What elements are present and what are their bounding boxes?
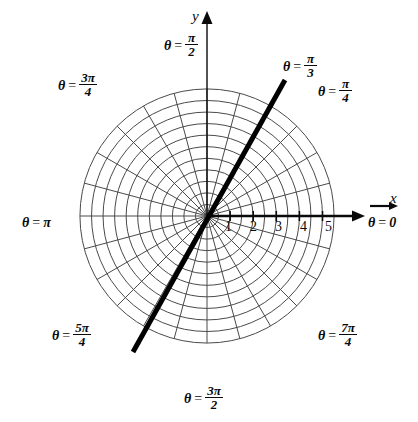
fraction: π 3 <box>304 52 317 80</box>
grid-spoke <box>207 216 271 326</box>
grid-spoke <box>143 106 207 216</box>
equals-sign: = <box>327 85 337 99</box>
theta-symbol: θ <box>22 216 29 230</box>
radial-tick-label-2: 2 <box>250 219 257 235</box>
equals-sign: = <box>292 60 302 74</box>
equals-sign: = <box>67 79 77 93</box>
fraction: 3π 2 <box>205 384 223 412</box>
grid-spoke <box>207 152 317 216</box>
fraction: π 2 <box>185 31 198 59</box>
fraction-numerator: 3π <box>205 384 223 397</box>
angle-label-theta-5pi-4: θ = 5π 4 <box>52 322 91 350</box>
fraction-denominator: 4 <box>73 334 91 348</box>
angle-label-theta-3pi-2: θ = 3π 2 <box>184 385 223 413</box>
radial-tick-label-3: 3 <box>275 219 282 235</box>
theta-symbol: θ <box>318 329 325 343</box>
grid-spoke <box>117 216 207 306</box>
fraction-denominator: 3 <box>304 65 317 79</box>
angle-label-theta-7pi-4: θ = 7π 4 <box>318 322 357 350</box>
polar-diagram-figure: 1 2 3 4 5 y x θ = π 2 θ = π 3 θ <box>0 0 418 422</box>
fraction-numerator: π <box>186 31 197 44</box>
fraction: 3π 4 <box>79 71 97 99</box>
fraction-denominator: 4 <box>79 84 97 98</box>
x-axis-label: x <box>390 190 397 207</box>
fraction-numerator: π <box>340 77 351 90</box>
equals-sign: = <box>31 216 41 230</box>
fraction-numerator: 5π <box>73 321 91 334</box>
theta-symbol: θ <box>164 39 171 53</box>
radial-tick-label-1: 1 <box>225 219 232 235</box>
angle-label-theta-pi-2: θ = π 2 <box>164 32 198 60</box>
equals-sign: = <box>193 392 203 406</box>
fraction-denominator: 2 <box>205 397 223 411</box>
equals-sign: = <box>61 329 71 343</box>
fraction: 7π 4 <box>339 321 357 349</box>
polar-grid-canvas <box>0 0 418 422</box>
fraction-denominator: 2 <box>185 44 198 58</box>
angle-label-theta-pi-4: θ = π 4 <box>318 78 352 106</box>
fraction: π 4 <box>339 77 352 105</box>
angle-label-theta-0: θ = 0 <box>368 216 396 230</box>
theta-symbol: θ <box>184 392 191 406</box>
theta-symbol: θ <box>52 329 59 343</box>
fraction-numerator: 7π <box>339 321 357 334</box>
fraction-denominator: 4 <box>339 334 357 348</box>
theta-symbol: θ <box>283 60 290 74</box>
fraction-numerator: π <box>305 52 316 65</box>
y-axis-arrowhead <box>202 11 213 24</box>
angle-value: 0 <box>389 216 396 230</box>
angle-label-theta-3pi-4: θ = 3π 4 <box>58 72 97 100</box>
fraction: 5π 4 <box>73 321 91 349</box>
fraction-denominator: 4 <box>339 90 352 104</box>
equals-sign: = <box>173 39 183 53</box>
y-axis-label: y <box>192 8 199 25</box>
grid-spoke <box>117 126 207 216</box>
angle-value: π <box>43 216 51 230</box>
radial-tick-label-4: 4 <box>300 219 307 235</box>
theta-symbol: θ <box>368 216 375 230</box>
theta-symbol: θ <box>318 85 325 99</box>
angle-label-theta-pi-3: θ = π 3 <box>283 53 317 81</box>
theta-symbol: θ <box>58 79 65 93</box>
equals-sign: = <box>377 216 387 230</box>
fraction-numerator: 3π <box>79 71 97 84</box>
equals-sign: = <box>327 329 337 343</box>
radial-tick-label-5: 5 <box>325 219 332 235</box>
y-axis <box>202 11 213 216</box>
grid-spoke <box>97 152 207 216</box>
x-axis-arrowhead <box>352 211 365 222</box>
angle-label-theta-pi: θ = π <box>22 216 51 230</box>
